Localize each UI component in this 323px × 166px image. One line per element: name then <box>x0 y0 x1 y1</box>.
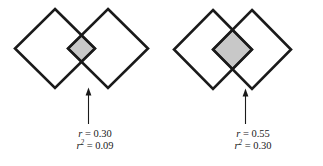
r-value-left: 0.30 <box>93 128 111 139</box>
overlap-region-right <box>213 30 252 69</box>
r-squared-label-right: r2 = 0.30 <box>192 140 314 152</box>
arrow-head-left <box>86 88 92 96</box>
r-squared-value-left: 0.09 <box>95 140 113 151</box>
figure-root: r = 0.30 r2 = 0.09 r = 0.55 r2 = 0.30 <box>0 0 323 166</box>
caption-left: r = 0.30 r2 = 0.09 <box>34 128 156 152</box>
caption-right: r = 0.55 r2 = 0.30 <box>192 128 314 152</box>
r-label-right: r = 0.55 <box>192 128 314 140</box>
r-value-right: 0.55 <box>251 128 269 139</box>
r-squared-equals-right: = <box>242 140 253 151</box>
panel-right-graphic <box>174 10 291 124</box>
panel-left-graphic <box>15 9 148 124</box>
r-squared-value-right: 0.30 <box>253 140 271 151</box>
r-label-left: r = 0.30 <box>34 128 156 140</box>
r-squared-equals-left: = <box>84 140 95 151</box>
arrow-head-right <box>243 89 249 97</box>
overlap-region-left <box>68 36 95 62</box>
r-squared-label-left: r2 = 0.09 <box>34 140 156 152</box>
